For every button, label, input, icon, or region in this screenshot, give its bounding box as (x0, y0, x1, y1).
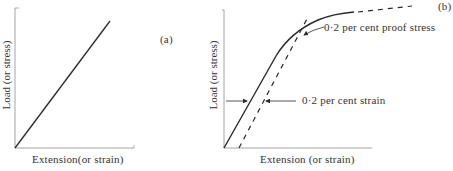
panel-b-y-axis-label: Load (or stress) (207, 32, 219, 118)
panel-b-proof-stress-arrow (304, 27, 324, 35)
panel-a-linear-curve (15, 21, 110, 148)
panel-a-x-axis-label: Extension(or strain) (32, 153, 124, 165)
panel-b-strain-label: 0·2 per cent strain (302, 94, 386, 106)
panel-b-x-axis-label: Extension (or strain) (260, 153, 355, 165)
panel-b-proof-stress-label: 0·2 per cent proof stress (324, 21, 435, 33)
panel-a-y-axis-label: Load (or stress) (0, 32, 12, 118)
panel-a-tag: (a) (160, 33, 173, 45)
panel-b-tag: (b) (438, 0, 451, 12)
panel-b-offset-line (239, 17, 308, 148)
panel-b-curve-dashed-extension (358, 6, 412, 12)
panel-a (15, 8, 134, 148)
